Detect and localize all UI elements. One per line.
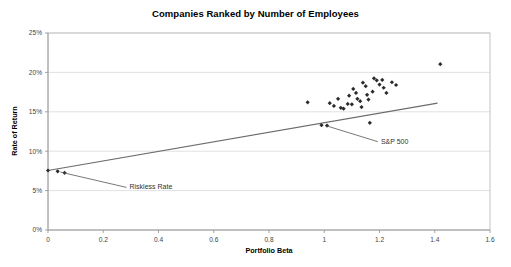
y-axis-tick-label: 0% <box>32 226 42 233</box>
y-axis-title: Rate of Return <box>10 106 19 156</box>
data-point <box>368 121 372 125</box>
data-point <box>306 100 310 104</box>
y-axis-tick-label: 20% <box>29 69 42 76</box>
x-axis-tick-label: 0.4 <box>154 236 163 243</box>
annotation-leader-line <box>327 126 378 142</box>
x-axis-tick-label: 1.2 <box>375 236 384 243</box>
data-point <box>370 90 374 94</box>
scatter-plot: 0%5%10%15%20%25% 00.20.40.60.811.21.41.6… <box>0 0 511 267</box>
data-point <box>56 169 60 173</box>
x-axis-tick-label: 0.8 <box>264 236 273 243</box>
data-point <box>382 86 386 90</box>
data-point <box>361 81 365 85</box>
annotation-label: S&P 500 <box>381 138 409 145</box>
annotation-leader-line <box>60 172 126 187</box>
gridlines <box>48 33 490 191</box>
data-point <box>336 97 340 101</box>
data-point <box>355 97 359 101</box>
data-point <box>347 94 351 98</box>
data-point <box>358 99 362 103</box>
y-axis: 0%5%10%15%20%25% <box>29 29 48 233</box>
data-point <box>364 84 368 88</box>
y-axis-tick-label: 5% <box>32 187 42 194</box>
y-axis-tick-label: 15% <box>29 108 42 115</box>
data-point <box>394 83 398 87</box>
data-points <box>46 62 442 175</box>
x-axis-tick-label: 0 <box>46 236 50 243</box>
plot-area-border <box>48 33 490 230</box>
data-point <box>332 104 336 108</box>
data-point <box>354 91 358 95</box>
x-axis-title: Portfolio Beta <box>245 246 293 255</box>
data-point <box>366 97 370 101</box>
x-axis-tick-label: 1.6 <box>485 236 494 243</box>
data-point <box>351 87 355 91</box>
x-axis-tick-label: 1 <box>322 236 326 243</box>
data-point <box>377 83 381 87</box>
data-point <box>328 101 332 105</box>
data-point <box>365 93 369 97</box>
data-point <box>46 168 50 172</box>
x-axis-tick-label: 1.4 <box>430 236 439 243</box>
annotation-label: Riskless Rate <box>129 183 172 190</box>
data-point <box>380 78 384 82</box>
data-point <box>325 123 329 127</box>
data-point <box>384 91 388 95</box>
data-point <box>438 62 442 66</box>
x-axis-tick-label: 0.2 <box>99 236 108 243</box>
x-axis: 00.20.40.60.811.21.41.6 <box>46 230 495 243</box>
data-point <box>346 102 350 106</box>
data-point <box>390 80 394 84</box>
y-axis-tick-label: 10% <box>29 148 42 155</box>
x-axis-tick-label: 0.6 <box>209 236 218 243</box>
trendline <box>48 103 438 170</box>
chart-container: Companies Ranked by Number of Employees … <box>0 0 511 267</box>
data-point <box>350 102 354 106</box>
data-point <box>359 105 363 109</box>
annotations: Riskless RateS&P 500 <box>60 126 408 190</box>
y-axis-tick-label: 25% <box>29 29 42 36</box>
